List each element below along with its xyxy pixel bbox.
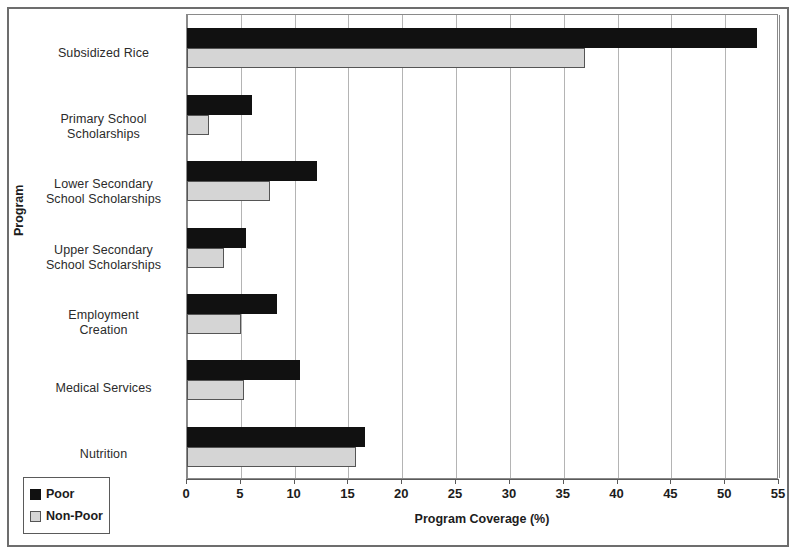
category-label-lower-secondary-school-scholarships: Lower Secondary School Scholarships (26, 177, 181, 207)
category-label-line: School Scholarships (26, 192, 181, 207)
legend-swatch-poor-icon (30, 489, 41, 500)
x-tick-label-55: 55 (758, 486, 797, 501)
category-label-line: Nutrition (26, 447, 181, 462)
bar-nutrition-nonpoor (187, 447, 356, 467)
x-tick-label-20: 20 (381, 486, 421, 501)
x-tick-label-35: 35 (543, 486, 583, 501)
bar-upper-secondary-school-scholarships-poor (187, 228, 246, 248)
x-tick-label-10: 10 (274, 486, 314, 501)
legend-item-nonpoor: Non-Poor (30, 505, 103, 527)
x-tick-35 (563, 479, 564, 484)
x-tick-15 (347, 479, 348, 484)
x-tick-label-45: 45 (650, 486, 690, 501)
category-label-primary-school-scholarships: Primary School Scholarships (26, 112, 181, 142)
gridline-40 (618, 15, 619, 478)
category-label-line: Subsidized Rice (26, 46, 181, 61)
y-axis-title: Program (12, 185, 26, 236)
bar-primary-school-scholarships-poor (187, 95, 252, 115)
category-label-column: Subsidized Rice Primary School Scholarsh… (26, 14, 181, 479)
x-tick-label-40: 40 (597, 486, 637, 501)
bar-employment-creation-nonpoor (187, 314, 241, 334)
gridline-55 (779, 15, 780, 478)
legend-item-poor: Poor (30, 483, 103, 505)
bar-employment-creation-poor (187, 294, 277, 314)
gridline-35 (564, 15, 565, 478)
bar-lower-secondary-school-scholarships-poor (187, 161, 317, 181)
category-label-medical-services: Medical Services (26, 381, 181, 396)
x-tick-45 (670, 479, 671, 484)
category-label-line: Lower Secondary (26, 177, 181, 192)
legend-label-nonpoor: Non-Poor (46, 509, 103, 523)
x-tick-25 (455, 479, 456, 484)
bar-nutrition-poor (187, 427, 365, 447)
bar-subsidized-rice-nonpoor (187, 48, 585, 68)
gridline-20 (402, 15, 403, 478)
category-label-line: Creation (26, 323, 181, 338)
x-tick-label-50: 50 (704, 486, 744, 501)
bar-primary-school-scholarships-nonpoor (187, 115, 209, 135)
category-label-subsidized-rice: Subsidized Rice (26, 46, 181, 61)
bar-subsidized-rice-poor (187, 28, 757, 48)
gridline-45 (671, 15, 672, 478)
x-tick-50 (724, 479, 725, 484)
x-tick-40 (617, 479, 618, 484)
category-label-upper-secondary-school-scholarships: Upper Secondary School Scholarships (26, 243, 181, 273)
chart-figure: Program Subsidized Rice Primary School S… (0, 0, 797, 560)
x-tick-0 (186, 479, 187, 484)
x-tick-label-15: 15 (327, 486, 367, 501)
x-axis-line (186, 479, 778, 480)
x-tick-55 (778, 479, 779, 484)
category-label-employment-creation: Employment Creation (26, 308, 181, 338)
category-label-line: Employment (26, 308, 181, 323)
x-tick-label-0: 0 (166, 486, 206, 501)
x-tick-label-30: 30 (489, 486, 529, 501)
bar-medical-services-poor (187, 360, 300, 380)
x-tick-label-25: 25 (435, 486, 475, 501)
category-label-nutrition: Nutrition (26, 447, 181, 462)
legend-swatch-nonpoor-icon (30, 511, 41, 522)
gridline-50 (725, 15, 726, 478)
x-axis-title: Program Coverage (%) (186, 512, 778, 526)
x-tick-30 (509, 479, 510, 484)
category-label-line: Primary School (26, 112, 181, 127)
legend-label-poor: Poor (46, 487, 74, 501)
x-tick-10 (294, 479, 295, 484)
bar-medical-services-nonpoor (187, 380, 244, 400)
x-tick-label-5: 5 (220, 486, 260, 501)
bar-upper-secondary-school-scholarships-nonpoor (187, 248, 224, 268)
category-label-line: Medical Services (26, 381, 181, 396)
bar-lower-secondary-school-scholarships-nonpoor (187, 181, 270, 201)
category-label-line: Scholarships (26, 127, 181, 142)
x-tick-20 (401, 479, 402, 484)
gridline-10 (295, 15, 296, 478)
plot-area (186, 14, 778, 479)
x-tick-5 (240, 479, 241, 484)
gridline-30 (510, 15, 511, 478)
gridline-25 (456, 15, 457, 478)
category-label-line: School Scholarships (26, 258, 181, 273)
category-label-line: Upper Secondary (26, 243, 181, 258)
legend: Poor Non-Poor (23, 477, 110, 534)
gridline-15 (348, 15, 349, 478)
